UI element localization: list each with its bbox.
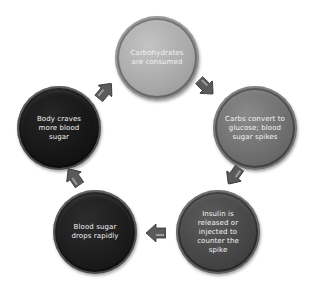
node-carbs-consumed: Carbohydrates are consumed — [115, 16, 199, 100]
node-label: Insulin is released or injected to count… — [176, 210, 260, 255]
node-label: Blood sugar drops rapidly — [53, 223, 137, 241]
node-label: Body craves more blood sugar — [17, 115, 101, 142]
node-label: Carbohydrates are consumed — [115, 49, 199, 67]
arrow-up-right-icon — [92, 78, 119, 105]
node-label: Carbs convert to glucose; blood sugar sp… — [213, 115, 297, 142]
node-insulin-released: Insulin is released or injected to count… — [176, 190, 260, 274]
blood-sugar-cycle-diagram: Carbohydrates are consumed Carbs convert… — [0, 0, 311, 285]
node-sugar-drops: Blood sugar drops rapidly — [53, 190, 137, 274]
arrow-down-right-icon — [193, 74, 220, 101]
node-body-craves: Body craves more blood sugar — [17, 86, 101, 170]
arrow-left-icon — [146, 224, 166, 242]
node-glucose-spike: Carbs convert to glucose; blood sugar sp… — [213, 86, 297, 170]
